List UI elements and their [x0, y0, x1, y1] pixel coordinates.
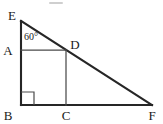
vertex-label-D: D: [70, 37, 79, 52]
figure-canvas: E A B C D F 60°: [0, 0, 163, 124]
vertex-label-F: F: [148, 108, 155, 123]
right-angle-marker-B: [21, 92, 34, 105]
vertex-label-C: C: [62, 108, 71, 123]
angle-label-E: 60°: [24, 31, 38, 42]
vertex-label-B: B: [4, 108, 13, 123]
vertex-label-A: A: [3, 43, 13, 58]
scan-artifact: [49, 2, 63, 4]
segment-EF: [21, 21, 152, 105]
geometry-figure: E A B C D F 60°: [0, 0, 163, 124]
vertex-label-E: E: [8, 8, 16, 23]
